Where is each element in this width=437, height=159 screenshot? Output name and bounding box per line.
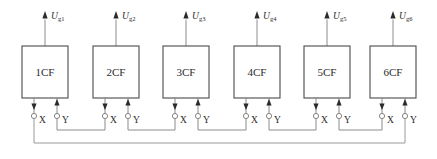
unit-2-y-arrow-icon (125, 99, 130, 106)
unit-3-output-label: Ug3 (192, 11, 205, 22)
unit-6-x-terminal[interactable] (379, 113, 384, 118)
unit-4-y-arrow-icon (266, 99, 271, 106)
block-diagram-canvas: Ug1 1CF X Y Ug2 2CF X Y (0, 0, 437, 159)
unit-1-y-label: Y (62, 115, 69, 125)
unit-6-x-arrow-icon (379, 104, 384, 111)
unit-6-y-terminal[interactable] (402, 113, 407, 118)
unit-2-x-label: X (110, 115, 117, 125)
unit-1-x-terminal[interactable] (31, 113, 36, 118)
unit-5-y-arrow-icon (336, 99, 341, 106)
unit-3-y-terminal[interactable] (195, 113, 200, 118)
unit-2-y-terminal[interactable] (125, 113, 130, 118)
unit-1-y-arrow-icon (54, 99, 59, 106)
unit-4-y-label: Y (274, 115, 281, 125)
unit-4-label: 4CF (248, 66, 267, 78)
unit-1-x-arrow-icon (31, 104, 36, 111)
unit-1-label: 1CF (36, 66, 55, 78)
unit-6-output-arrow-icon (390, 11, 395, 19)
unit-2-output-label: Ug2 (122, 11, 135, 22)
unit-5-y-label: Y (344, 115, 351, 125)
unit-1-group[interactable]: Ug1 1CF X Y (22, 11, 69, 125)
unit-4-x-terminal[interactable] (243, 113, 248, 118)
unit-4-output-label: Ug4 (263, 11, 277, 22)
unit-2-group[interactable]: Ug2 2CF X Y (93, 11, 140, 125)
unit-2-y-label: Y (133, 115, 140, 125)
diagram-svg: Ug1 1CF X Y Ug2 2CF X Y (0, 0, 437, 159)
unit-2-x-arrow-icon (102, 104, 107, 111)
unit-1-output-label: Ug1 (51, 11, 64, 22)
unit-4-group[interactable]: Ug4 4CF X Y (234, 11, 281, 125)
unit-6-output-label: Ug6 (399, 11, 413, 22)
unit-2-x-terminal[interactable] (102, 113, 107, 118)
unit-5-x-label: X (321, 115, 328, 125)
unit-3-group[interactable]: Ug3 3CF X Y (163, 11, 210, 125)
unit-4-y-terminal[interactable] (266, 113, 271, 118)
unit-4-x-arrow-icon (243, 104, 248, 111)
unit-3-x-terminal[interactable] (172, 113, 177, 118)
unit-5-x-arrow-icon (313, 104, 318, 111)
unit-3-x-arrow-icon (172, 104, 177, 111)
unit-3-label: 3CF (177, 66, 196, 78)
unit-6-y-arrow-icon (402, 99, 407, 106)
unit-5-y-terminal[interactable] (336, 113, 341, 118)
unit-4-x-label: X (251, 115, 258, 125)
unit-2-output-arrow-icon (113, 11, 118, 19)
unit-3-y-arrow-icon (195, 99, 200, 106)
unit-1-x-label: X (39, 115, 46, 125)
unit-3-output-arrow-icon (183, 11, 188, 19)
unit-6-label: 6CF (384, 66, 403, 78)
unit-1-output-arrow-icon (42, 11, 47, 19)
unit-5-output-label: Ug5 (333, 11, 346, 22)
unit-2-label: 2CF (107, 66, 126, 78)
unit-3-x-label: X (180, 115, 187, 125)
unit-5-x-terminal[interactable] (313, 113, 318, 118)
unit-3-y-label: Y (203, 115, 210, 125)
unit-5-output-arrow-icon (324, 11, 329, 19)
unit-6-x-label: X (387, 115, 394, 125)
unit-6-y-label: Y (410, 115, 417, 125)
unit-5-group[interactable]: Ug5 5CF X Y (304, 11, 351, 125)
unit-5-label: 5CF (318, 66, 337, 78)
unit-1-y-terminal[interactable] (54, 113, 59, 118)
unit-4-output-arrow-icon (254, 11, 259, 19)
unit-6-group[interactable]: Ug6 6CF X Y (370, 11, 417, 125)
